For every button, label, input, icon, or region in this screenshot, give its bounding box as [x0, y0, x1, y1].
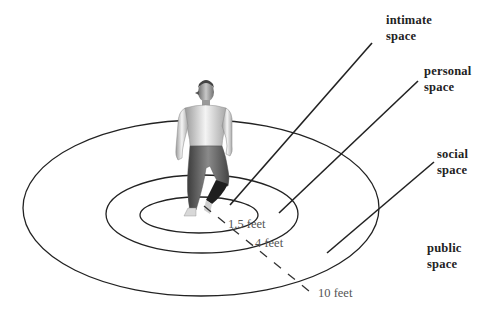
distance-label-10ft: 10 feet: [318, 286, 352, 301]
distance-label-4ft: 4 feet: [255, 236, 283, 251]
label-public-space: public space: [427, 240, 462, 272]
label-intimate-line1: intimate: [386, 12, 432, 28]
distance-label-1-5ft: 1.5 feet: [228, 217, 265, 232]
human-figure: [168, 80, 234, 218]
label-intimate-line2: space: [386, 28, 432, 44]
label-social-space: social space: [437, 146, 468, 178]
label-public-line1: public: [427, 240, 462, 256]
label-intimate-space: intimate space: [386, 12, 432, 44]
leader-social: [327, 162, 434, 253]
label-social-line1: social: [437, 146, 468, 162]
label-public-line2: space: [427, 256, 462, 272]
label-social-line2: space: [437, 162, 468, 178]
label-personal-space: personal space: [424, 63, 471, 95]
proxemics-diagram: [0, 0, 491, 335]
label-personal-line2: space: [424, 79, 471, 95]
label-personal-line1: personal: [424, 63, 471, 79]
